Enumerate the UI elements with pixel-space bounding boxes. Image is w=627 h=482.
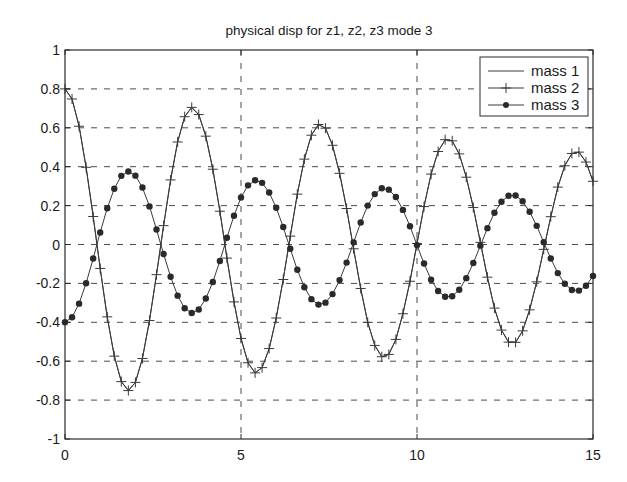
plus-marker bbox=[433, 147, 443, 157]
dot-marker bbox=[294, 267, 300, 273]
plus-marker bbox=[285, 231, 295, 241]
dot-marker bbox=[90, 255, 96, 261]
plus-marker bbox=[95, 263, 105, 273]
dot-marker bbox=[308, 296, 314, 302]
dot-marker bbox=[463, 275, 469, 281]
chart: physical disp for z1, z2, z3 mode 3 -1-0… bbox=[0, 0, 627, 482]
dot-marker bbox=[125, 168, 131, 174]
dot-marker bbox=[238, 194, 244, 200]
dot-marker bbox=[280, 224, 286, 230]
dot-marker bbox=[146, 203, 152, 209]
dot-marker bbox=[498, 199, 504, 205]
plus-marker bbox=[74, 121, 84, 131]
series-mass-2 bbox=[60, 84, 598, 396]
plus-marker bbox=[236, 333, 246, 343]
dot-marker bbox=[400, 207, 406, 213]
plus-marker bbox=[525, 305, 535, 315]
dot-marker bbox=[421, 260, 427, 266]
plus-marker bbox=[518, 326, 528, 336]
plus-marker bbox=[426, 169, 436, 179]
legend: mass 1 mass 2 mass 3 bbox=[480, 57, 588, 116]
y-tick-label: 0.2 bbox=[41, 198, 61, 214]
dot-marker bbox=[407, 223, 413, 229]
dot-marker bbox=[287, 246, 293, 252]
plus-marker bbox=[560, 161, 570, 171]
dot-marker bbox=[203, 295, 209, 301]
y-tick-label: 0.8 bbox=[41, 81, 61, 97]
dot-marker bbox=[343, 259, 349, 265]
dot-marker bbox=[76, 300, 82, 306]
plus-marker bbox=[250, 368, 260, 378]
dot-marker bbox=[548, 255, 554, 261]
dot-marker bbox=[393, 194, 399, 200]
plus-marker bbox=[377, 352, 387, 362]
chart-title: physical disp for z1, z2, z3 mode 3 bbox=[225, 23, 432, 38]
x-tick-label: 10 bbox=[409, 447, 425, 463]
y-tick-label: 0.4 bbox=[41, 159, 61, 175]
plus-marker bbox=[208, 164, 218, 174]
dot-marker bbox=[414, 242, 420, 248]
plus-marker bbox=[299, 154, 309, 164]
plus-marker bbox=[67, 94, 77, 104]
dot-marker bbox=[329, 291, 335, 297]
dot-marker bbox=[442, 294, 448, 300]
x-tick-label: 0 bbox=[61, 447, 69, 463]
plus-marker bbox=[440, 135, 450, 145]
plus-marker bbox=[419, 202, 429, 212]
y-tick-label: -0.4 bbox=[36, 314, 60, 330]
dot-marker bbox=[336, 277, 342, 283]
y-tick-label: 0 bbox=[52, 237, 60, 253]
plus-marker bbox=[581, 157, 591, 167]
dot-marker bbox=[435, 288, 441, 294]
plus-marker bbox=[201, 131, 211, 141]
plus-marker bbox=[243, 358, 253, 368]
plot-series bbox=[60, 84, 598, 396]
dot-marker-icon bbox=[503, 102, 509, 108]
dot-marker bbox=[301, 284, 307, 290]
dot-marker bbox=[252, 177, 258, 183]
legend-label: mass 3 bbox=[531, 96, 579, 113]
dot-marker bbox=[104, 205, 110, 211]
plus-marker bbox=[496, 325, 506, 335]
plus-marker bbox=[447, 136, 457, 146]
plus-marker bbox=[356, 283, 366, 293]
plus-marker bbox=[166, 175, 176, 185]
series-mass-3 bbox=[62, 168, 596, 325]
dot-marker bbox=[505, 192, 511, 198]
plus-marker bbox=[257, 363, 267, 373]
plus-marker bbox=[461, 172, 471, 182]
plus-marker bbox=[384, 349, 394, 359]
plus-marker bbox=[335, 168, 345, 178]
dot-marker bbox=[562, 281, 568, 287]
dot-marker bbox=[372, 191, 378, 197]
dot-marker bbox=[196, 306, 202, 312]
plus-marker bbox=[398, 309, 408, 319]
dot-marker bbox=[153, 226, 159, 232]
dot-marker bbox=[357, 219, 363, 225]
dot-marker bbox=[315, 301, 321, 307]
plus-marker bbox=[271, 313, 281, 323]
dot-marker bbox=[266, 189, 272, 195]
dot-marker bbox=[470, 260, 476, 266]
dot-marker bbox=[322, 299, 328, 305]
plus-marker bbox=[173, 137, 183, 147]
plus-marker bbox=[328, 140, 338, 150]
dot-marker bbox=[350, 239, 356, 245]
dot-marker bbox=[555, 270, 561, 276]
plus-marker bbox=[109, 351, 119, 361]
plus-marker bbox=[229, 297, 239, 307]
plus-marker bbox=[370, 340, 380, 350]
dot-marker bbox=[231, 213, 237, 219]
dot-marker bbox=[576, 287, 582, 293]
y-tick-label: 0.6 bbox=[41, 120, 61, 136]
dot-marker bbox=[224, 234, 230, 240]
plus-marker bbox=[81, 162, 91, 172]
dot-marker bbox=[259, 180, 265, 186]
dot-marker bbox=[189, 310, 195, 316]
dot-marker bbox=[83, 280, 89, 286]
y-tick-label: -0.8 bbox=[36, 392, 60, 408]
plus-marker bbox=[546, 212, 556, 222]
dot-marker bbox=[512, 192, 518, 198]
dot-marker bbox=[379, 185, 385, 191]
plus-marker bbox=[391, 334, 401, 344]
